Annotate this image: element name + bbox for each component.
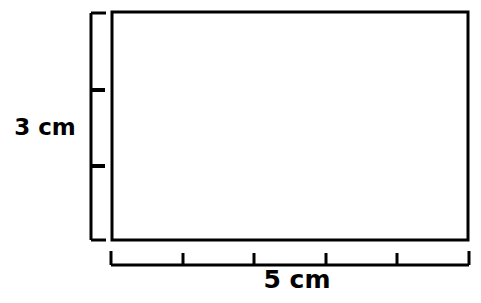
height-label: 3 cm xyxy=(14,114,76,140)
background xyxy=(0,0,481,303)
rectangle-measurement-diagram: 3 cm 5 cm xyxy=(0,0,481,303)
figure-canvas: 3 cm 5 cm xyxy=(0,0,481,303)
width-label: 5 cm xyxy=(264,265,331,294)
